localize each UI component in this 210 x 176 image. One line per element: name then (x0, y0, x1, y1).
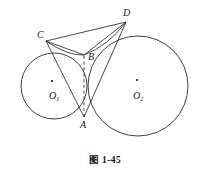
caption-mark: 图 (89, 155, 99, 165)
center-label-o2-subscript: 2 (140, 95, 144, 102)
point-label-B: B (88, 51, 94, 62)
figure-container: A B C D O1 O2 图 1-45 (0, 0, 210, 176)
caption-number: 1-45 (102, 155, 121, 165)
center-label-o2-letter: O (133, 90, 140, 101)
center-label-o1-letter: O (49, 90, 56, 101)
center-label-o1: O1 (49, 90, 59, 102)
center-label-o2: O2 (133, 90, 144, 102)
point-label-A: A (79, 119, 87, 130)
center-label-o1-subscript: 1 (56, 95, 59, 102)
point-label-C: C (37, 29, 44, 40)
figure-caption: 图 1-45 (0, 152, 210, 166)
center-dot-o2 (136, 79, 138, 81)
center-dot-o1 (51, 80, 53, 82)
segment-DA (84, 22, 126, 117)
circle-o1 (21, 53, 87, 119)
geometry-diagram: A B C D O1 O2 (0, 0, 210, 176)
circle-o2 (88, 36, 188, 136)
point-label-D: D (122, 7, 131, 18)
segment-CA (46, 41, 84, 117)
